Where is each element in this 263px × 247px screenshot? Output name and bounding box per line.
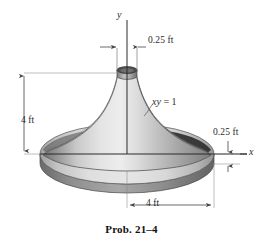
curve-equation-label: xy = 1 xyxy=(152,97,177,107)
curve-equation-relation: = 1 xyxy=(161,96,177,107)
x-axis-label: x xyxy=(249,147,253,157)
figure-caption: Prob. 21–4 xyxy=(0,223,263,235)
y-axis-label: y xyxy=(117,10,121,20)
curve-equation-variables: xy xyxy=(152,96,161,107)
dimension-label-base-radius: 4 ft xyxy=(146,199,159,209)
figure-container: 0.25 ft 4 ft 0.25 ft 4 ft y x xy = 1 Pro… xyxy=(0,0,263,247)
solid-of-revolution-diagram xyxy=(0,0,263,247)
dimension-label-body-height: 4 ft xyxy=(21,116,34,126)
dimension-label-base-thickness: 0.25 ft xyxy=(213,128,239,138)
dimension-label-neck-width: 0.25 ft xyxy=(148,36,174,46)
